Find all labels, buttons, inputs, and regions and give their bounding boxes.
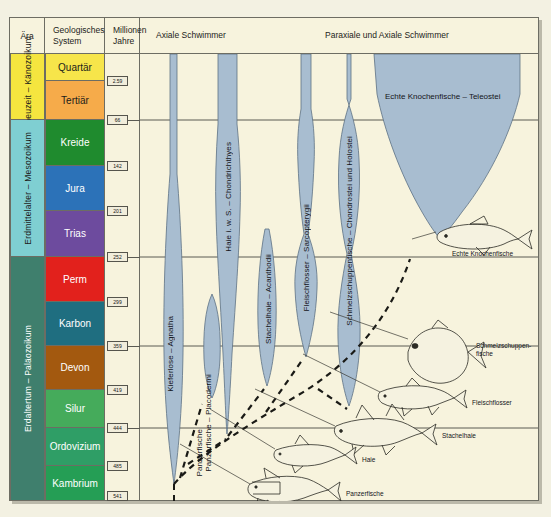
clade-label-teleostei: Echte Knochenfische – Teleostei [385, 92, 500, 101]
system-column: QuartärTertiärKreideJuraTriasPermKarbonD… [45, 54, 105, 501]
ma-tick-66: 66 [107, 115, 128, 125]
header-ma: Millionen Jahre [105, 18, 140, 54]
leader-panzerfische [180, 444, 250, 484]
clade-label-chondrichthyes: Haie i. w. S. – Chondrichthyes [224, 142, 233, 252]
dashed-to-chondrostei [318, 389, 347, 409]
era-label: Erdmittelalter – Mesozoikum [23, 132, 33, 245]
ma-tick-142: 142 [107, 161, 128, 171]
system-cell-trias: Trias [45, 211, 105, 257]
era-column: Erdneuzeit – KänozoikumErdmittelalter – … [10, 54, 45, 501]
spindle-agnatha [164, 54, 183, 484]
header-system: Geologisches System [45, 18, 105, 54]
phylogeny-plot: Kieferlose – Agnatha Panzerfische – Plac… [140, 54, 538, 501]
ma-tick-2.59: 2.59 [107, 76, 128, 86]
system-cell-ordovizium: Ordovizium [45, 428, 105, 466]
system-cell-devon: Devon [45, 346, 105, 390]
ma-tick-201: 201 [107, 206, 128, 216]
specimen-label-panzerfische: Panzerfische [346, 490, 384, 498]
specimen-label-stachelhaie: Stachelhaie [442, 432, 476, 440]
system-cell-jura: Jura [45, 166, 105, 211]
system-cell-tertiär: Tertiär [45, 81, 105, 120]
fish-stachelhaie [334, 404, 437, 455]
system-cell-silur: Silur [45, 390, 105, 428]
system-cell-perm: Perm [45, 257, 105, 302]
system-cell-quartär: Quartär [45, 54, 105, 81]
era-cell-2: Erdaltertum – Paläozoikum [10, 257, 45, 501]
ma-tick-359: 359 [107, 341, 128, 351]
ma-tick-485: 485 [107, 461, 128, 471]
leader-stachelhaie [255, 389, 335, 426]
system-cell-kreide: Kreide [45, 120, 105, 166]
ma-tick-444: 444 [107, 423, 128, 433]
ma-tick-419: 419 [107, 385, 128, 395]
evolution-timeline-figure: Ära Geologisches System Millionen Jahre … [0, 0, 551, 517]
clade-label-placodermi: Panzerfische – Placodermi [204, 374, 213, 472]
specimen-label-haie: Haie [362, 456, 375, 464]
system-cell-karbon: Karbon [45, 302, 105, 346]
clade-label-sarcopterygii: Fleischflosser – Sarcopterygii [302, 204, 311, 311]
ma-tick-299: 299 [107, 297, 128, 307]
header-paraxial-swimmers: Paraxiale und Axiale Schwimmer [295, 18, 540, 54]
clade-label-panzerfische-stem: Panzerfische [195, 429, 204, 476]
specimen-label-schmelzschuppenfische: Schmelzschuppen-fische [476, 342, 518, 357]
ma-tick-252: 252 [107, 252, 128, 262]
era-cell-0: Erdneuzeit – Känozoikum [10, 54, 45, 120]
system-cell-kambrium: Kambrium [45, 466, 105, 501]
clade-label-acanthodii: Stachelhaie – Acanthodii [264, 254, 273, 344]
leader-teleostei [412, 232, 436, 239]
header-axial-swimmers: Axiale Schwimmer [140, 18, 295, 54]
fish-fleischflosser [378, 378, 467, 416]
million-years-column: 2.5966142201252299359419444485541 [105, 54, 140, 501]
ma-rule-444 [128, 428, 140, 429]
clade-spindles [164, 54, 520, 484]
spindle-teleostei [374, 54, 520, 239]
ma-tick-541: 541 [107, 491, 128, 501]
era-cell-1: Erdmittelalter – Mesozoikum [10, 120, 45, 257]
ma-rule-359 [128, 346, 140, 347]
specimen-label-echte-knochenfische: Echte Knochenfische [452, 250, 513, 258]
specimen-label-fleischflosser: Fleischflosser [472, 399, 512, 407]
dashed-to-acanthodii [228, 389, 264, 436]
figure-frame: Ära Geologisches System Millionen Jahre … [9, 17, 539, 501]
clade-label-agnatha: Kieferlose – Agnatha [166, 316, 175, 392]
clade-label-chondrostei-holostei: Schmelzschuppenfische – Chondrostei und … [345, 136, 354, 326]
ma-rule-252 [128, 257, 140, 258]
table-header: Ära Geologisches System Millionen Jahre … [10, 18, 538, 54]
era-label: Erdaltertum – Paläozoikum [23, 325, 33, 432]
fish-schmelzschuppenfische [408, 320, 486, 383]
ma-rule-66 [128, 120, 140, 121]
fish-panzerfische [248, 468, 341, 501]
